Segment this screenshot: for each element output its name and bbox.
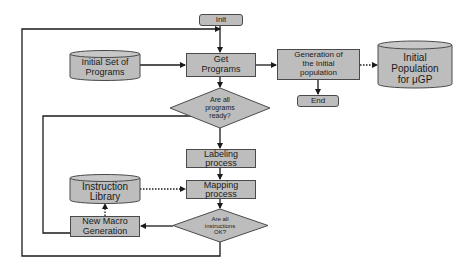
- instructions-ok-label: Are all instructions OK?: [190, 214, 250, 238]
- end-node: End: [297, 95, 339, 107]
- get-programs-label-line2: Programs: [201, 65, 240, 75]
- init-label: Init: [216, 16, 227, 25]
- instructions-ok-label-line1: Are all: [211, 216, 228, 223]
- new-macro-label-line2: Generation: [83, 227, 128, 236]
- get-programs-node: Get Programs: [186, 53, 256, 77]
- init-node: Init: [199, 14, 243, 26]
- initial-set-label: Initial Set of Programs: [70, 58, 140, 78]
- initial-population-label-line3: for μGP: [398, 74, 433, 85]
- programs-ready-label-line1: Are all: [210, 96, 230, 104]
- instruction-library-label: Instruction Library: [70, 182, 140, 202]
- instructions-ok-label-line3: OK?: [214, 229, 226, 236]
- programs-ready-label-line3: ready?: [209, 112, 230, 120]
- labeling-label-line2: process: [205, 159, 237, 168]
- labeling-node: Labeling process: [186, 149, 256, 168]
- initial-population-label-line2: Population: [391, 63, 438, 74]
- initial-set-label-line2: Programs: [85, 68, 124, 78]
- generation-label-line3: population: [300, 69, 337, 78]
- mapping-node: Mapping process: [186, 180, 256, 199]
- mapping-label-line2: process: [205, 190, 237, 199]
- end-label: End: [311, 97, 325, 106]
- programs-ready-label: Are all programs ready?: [190, 94, 250, 122]
- new-macro-node: New Macro Generation: [70, 216, 140, 237]
- generation-node: Generation of the Initial population: [277, 49, 360, 80]
- programs-ready-label-line2: programs: [205, 104, 235, 112]
- instruction-library-label-line2: Library: [90, 192, 121, 203]
- initial-population-label-line1: Initial: [403, 52, 426, 63]
- initial-population-label: Initial Population for μGP: [378, 50, 452, 86]
- instructions-ok-label-line2: instructions: [205, 223, 235, 230]
